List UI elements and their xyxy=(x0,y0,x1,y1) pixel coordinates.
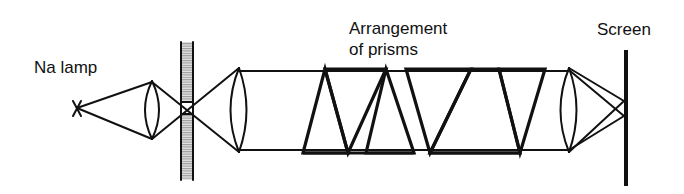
focusing-lens xyxy=(561,68,577,152)
spectroscope-diagram: Na lamp Arrangement of prisms Screen xyxy=(0,0,684,194)
label-prisms-line1: Arrangement xyxy=(349,19,448,38)
input-rays xyxy=(77,82,152,139)
prism-1 xyxy=(303,69,348,153)
slit-rays xyxy=(152,68,239,152)
collimator-lens xyxy=(231,68,247,152)
label-screen: Screen xyxy=(597,20,651,39)
prism-5 xyxy=(430,69,520,153)
label-prisms-line2: of prisms xyxy=(349,40,418,59)
parallel-beam xyxy=(239,71,568,150)
prism-4 xyxy=(406,69,471,153)
condenser-lens xyxy=(145,81,159,139)
label-na-lamp: Na lamp xyxy=(34,58,97,77)
prism-arrangement xyxy=(303,69,545,153)
prism-6 xyxy=(499,69,545,153)
prism-3 xyxy=(366,69,414,153)
